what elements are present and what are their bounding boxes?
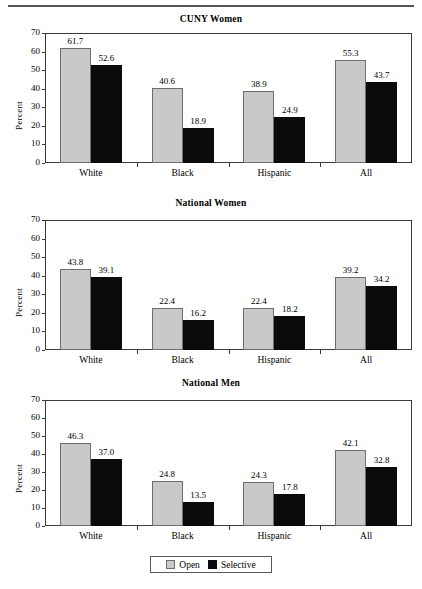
legend-label-selective: Selective bbox=[221, 560, 256, 570]
y-tick-mark-1-1 bbox=[42, 331, 45, 332]
x-axis-label-1-1: Black bbox=[143, 355, 223, 365]
chart-legend: OpenSelective bbox=[150, 556, 272, 573]
bar-value-2-3-selective: 32.8 bbox=[362, 455, 402, 465]
y-tick-label-1-6: 60 bbox=[18, 233, 40, 243]
y-tick-mark-2-1 bbox=[42, 508, 45, 509]
y-tick-label-2-1: 10 bbox=[18, 502, 40, 512]
panel-title-0: CUNY Women bbox=[0, 14, 422, 24]
bar-value-2-2-selective: 17.8 bbox=[270, 482, 310, 492]
bar-value-1-2-selective: 18.2 bbox=[270, 304, 310, 314]
y-tick-mark-1-7 bbox=[42, 220, 45, 221]
x-tick-mark-2-3 bbox=[320, 526, 321, 530]
y-tick-label-0-6: 60 bbox=[18, 46, 40, 56]
y-tick-label-0-4: 40 bbox=[18, 83, 40, 93]
bar-0-1-selective bbox=[183, 128, 214, 163]
y-tick-mark-1-0 bbox=[42, 350, 45, 351]
y-tick-mark-0-6 bbox=[42, 52, 45, 53]
bar-value-0-2-open: 38.9 bbox=[239, 79, 279, 89]
y-tick-mark-1-3 bbox=[42, 294, 45, 295]
y-tick-label-1-1: 10 bbox=[18, 325, 40, 335]
y-tick-label-1-4: 40 bbox=[18, 270, 40, 280]
bar-value-2-3-open: 42.1 bbox=[331, 438, 371, 448]
x-tick-mark-0-2 bbox=[229, 163, 230, 167]
x-tick-mark-1-2 bbox=[229, 350, 230, 354]
bar-2-3-selective bbox=[366, 467, 397, 526]
y-tick-label-0-3: 30 bbox=[18, 101, 40, 111]
y-tick-mark-0-1 bbox=[42, 144, 45, 145]
x-axis-label-1-0: White bbox=[51, 355, 131, 365]
y-tick-label-2-7: 70 bbox=[18, 394, 40, 404]
x-axis-label-0-1: Black bbox=[143, 168, 223, 178]
bar-0-3-selective bbox=[366, 82, 397, 163]
y-tick-label-1-0: 0 bbox=[18, 344, 40, 354]
y-tick-mark-2-3 bbox=[42, 472, 45, 473]
bar-2-0-selective bbox=[91, 459, 122, 526]
legend-swatch-open bbox=[166, 560, 175, 569]
y-tick-label-0-5: 50 bbox=[18, 64, 40, 74]
y-tick-label-1-5: 50 bbox=[18, 251, 40, 261]
y-tick-label-2-2: 20 bbox=[18, 484, 40, 494]
y-tick-mark-0-5 bbox=[42, 70, 45, 71]
y-tick-mark-2-4 bbox=[42, 454, 45, 455]
y-tick-mark-1-2 bbox=[42, 313, 45, 314]
y-tick-mark-2-5 bbox=[42, 436, 45, 437]
y-tick-mark-2-6 bbox=[42, 418, 45, 419]
x-axis-label-0-0: White bbox=[51, 168, 131, 178]
bar-0-0-selective bbox=[91, 65, 122, 163]
x-axis-label-2-1: Black bbox=[143, 531, 223, 541]
x-axis-label-0-2: Hispanic bbox=[234, 168, 314, 178]
bar-1-3-open bbox=[335, 277, 366, 350]
y-tick-label-2-3: 30 bbox=[18, 466, 40, 476]
y-tick-label-0-0: 0 bbox=[18, 157, 40, 167]
x-axis-label-0-3: All bbox=[326, 168, 406, 178]
y-tick-mark-0-2 bbox=[42, 126, 45, 127]
bar-1-2-selective bbox=[274, 316, 305, 350]
x-tick-mark-2-2 bbox=[229, 526, 230, 530]
bar-value-0-1-open: 40.6 bbox=[147, 76, 187, 86]
x-axis-label-1-3: All bbox=[326, 355, 406, 365]
x-tick-mark-2-1 bbox=[137, 526, 138, 530]
x-axis-label-2-2: Hispanic bbox=[234, 531, 314, 541]
y-tick-label-1-7: 70 bbox=[18, 214, 40, 224]
panel-title-1: National Women bbox=[0, 198, 422, 208]
x-tick-mark-0-1 bbox=[137, 163, 138, 167]
top-horizontal-rule bbox=[8, 5, 414, 7]
y-tick-mark-0-4 bbox=[42, 89, 45, 90]
bar-value-1-0-selective: 39.1 bbox=[86, 265, 126, 275]
y-tick-mark-0-0 bbox=[42, 163, 45, 164]
figure-bar-chart-panels: CUNY WomenPercent010203040506070White61.… bbox=[0, 0, 422, 589]
bar-value-0-3-selective: 43.7 bbox=[362, 70, 402, 80]
bar-value-1-1-open: 22.4 bbox=[147, 296, 187, 306]
panel-title-2: National Men bbox=[0, 378, 422, 388]
y-tick-label-0-1: 10 bbox=[18, 138, 40, 148]
bar-1-3-selective bbox=[366, 286, 397, 350]
legend-swatch-selective bbox=[208, 560, 217, 569]
bar-value-0-1-selective: 18.9 bbox=[178, 116, 218, 126]
y-tick-label-2-0: 0 bbox=[18, 520, 40, 530]
x-axis-label-1-2: Hispanic bbox=[234, 355, 314, 365]
x-tick-mark-1-1 bbox=[137, 350, 138, 354]
bar-0-2-selective bbox=[274, 117, 305, 163]
y-tick-mark-1-5 bbox=[42, 257, 45, 258]
x-axis-label-2-3: All bbox=[326, 531, 406, 541]
bar-value-2-1-selective: 13.5 bbox=[178, 490, 218, 500]
bar-1-1-selective bbox=[183, 320, 214, 350]
x-axis-label-2-0: White bbox=[51, 531, 131, 541]
bar-1-0-open bbox=[60, 269, 91, 350]
y-tick-label-2-6: 60 bbox=[18, 412, 40, 422]
bar-value-1-1-selective: 16.2 bbox=[178, 308, 218, 318]
bar-value-2-2-open: 24.3 bbox=[239, 470, 279, 480]
y-tick-label-2-4: 40 bbox=[18, 448, 40, 458]
x-tick-mark-1-3 bbox=[320, 350, 321, 354]
bar-2-1-selective bbox=[183, 502, 214, 526]
y-tick-label-0-7: 70 bbox=[18, 27, 40, 37]
y-tick-mark-1-4 bbox=[42, 276, 45, 277]
bar-value-2-1-open: 24.8 bbox=[147, 469, 187, 479]
bar-value-1-3-selective: 34.2 bbox=[362, 274, 402, 284]
x-tick-mark-0-3 bbox=[320, 163, 321, 167]
bar-value-0-3-open: 55.3 bbox=[331, 48, 371, 58]
bar-value-2-0-selective: 37.0 bbox=[86, 447, 126, 457]
bar-2-1-open bbox=[152, 481, 183, 526]
y-tick-mark-2-2 bbox=[42, 490, 45, 491]
legend-item-0: Open bbox=[166, 560, 200, 570]
